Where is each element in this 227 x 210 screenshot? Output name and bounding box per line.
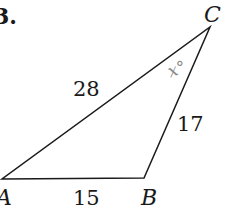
side-bc-label: 17 xyxy=(177,112,204,136)
side-ab-label: 15 xyxy=(73,186,100,210)
triangle-diagram: 3. C A B 28 17 15 x° xyxy=(0,0,227,210)
vertex-b-label: B xyxy=(140,185,157,210)
problem-number: 3. xyxy=(0,3,17,29)
vertex-a-label: A xyxy=(0,185,12,210)
vertex-c-label: C xyxy=(204,2,221,27)
angle-x-label: x° xyxy=(165,56,189,81)
side-ac-label: 28 xyxy=(73,77,100,101)
triangle-abc xyxy=(2,27,210,179)
